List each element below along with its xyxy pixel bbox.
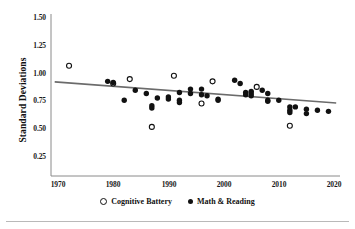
trend-line [55,82,337,103]
footer-divider [6,221,349,222]
data-point-math-reading [149,105,154,110]
data-point-math-reading [326,109,331,114]
data-point-math-reading [287,110,292,115]
data-point-cognitive-battery [67,63,72,68]
data-point-math-reading [249,93,254,98]
chart-figure: Standard Deviations 1.50 1.25 1.00 0.75 … [0,0,355,229]
x-tick-label: 2010 [259,180,299,189]
data-point-math-reading [122,98,127,103]
trend-line-path [55,82,337,103]
data-point-math-reading [276,98,281,103]
x-tick-label: 1970 [38,180,78,189]
x-axis-tick-labels: 1970 1980 1990 2000 2010 2020 [0,180,355,192]
data-point-math-reading [215,98,220,103]
data-point-math-reading [260,88,265,93]
data-point-math-reading [293,104,298,109]
data-point-math-reading [315,108,320,113]
data-point-math-reading [237,81,242,86]
data-point-cognitive-battery [171,73,176,78]
data-point-math-reading [133,88,138,93]
data-point-math-reading [155,95,160,100]
legend-label: Math & Reading [197,197,255,206]
x-tick-label: 2000 [204,180,244,189]
x-tick-label: 1980 [93,180,133,189]
legend-item-cognitive-battery: Cognitive Battery [100,197,172,206]
x-tick-label: 1990 [149,180,189,189]
x-tick-label: 2020 [314,180,354,189]
data-point-math-reading [204,93,209,98]
data-point-math-reading [232,78,237,83]
legend-item-math-reading: Math & Reading [188,197,255,206]
data-point-math-reading [105,79,110,84]
data-point-math-reading [166,96,171,101]
scatter-plot-canvas [0,0,355,229]
data-point-math-reading [199,92,204,97]
data-point-cognitive-battery [127,77,132,82]
data-point-math-reading [199,86,204,91]
data-point-cognitive-battery [287,123,292,128]
data-point-math-reading [144,91,149,96]
data-point-cognitive-battery [149,124,154,129]
data-point-cognitive-battery [210,79,215,84]
data-point-math-reading [265,99,270,104]
data-point-math-reading [188,91,193,96]
data-point-math-reading [111,80,116,85]
data-points-layer [67,63,332,129]
data-point-math-reading [177,100,182,105]
open-circle-icon [100,198,107,205]
data-point-math-reading [265,91,270,96]
chart-legend: Cognitive Battery Math & Reading [0,197,355,206]
filled-circle-icon [188,199,193,204]
data-point-math-reading [304,111,309,116]
legend-label: Cognitive Battery [111,197,172,206]
data-point-math-reading [177,90,182,95]
data-point-cognitive-battery [254,84,259,89]
data-point-cognitive-battery [199,101,204,106]
data-point-math-reading [243,92,248,97]
axis-lines [51,14,340,176]
